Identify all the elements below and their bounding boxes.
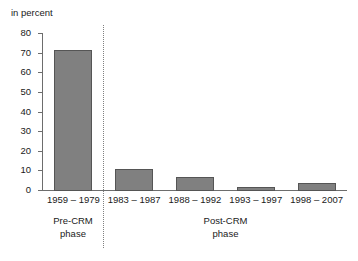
x-axis-tick-label: 1993 – 1997 (225, 194, 286, 206)
bars-layer (43, 33, 347, 191)
y-axis-tick: 60 (38, 72, 42, 73)
bar-chart: in percent 80 70 60 50 40 30 20 (0, 0, 358, 261)
phase-caption-line1: Pre-CRM (43, 214, 103, 227)
phase-caption-line2: phase (43, 227, 103, 240)
y-axis-tick: 40 (38, 112, 42, 113)
phase-caption-line2: phase (104, 227, 347, 240)
bar-slot (225, 33, 286, 191)
y-axis-tick: 20 (38, 151, 42, 152)
y-axis-tick: 70 (38, 53, 42, 54)
bar (237, 187, 275, 191)
y-axis-tick: 50 (38, 92, 42, 93)
y-axis-tick-label: 40 (20, 106, 31, 117)
phase-caption-pre-crm: Pre-CRM phase (43, 214, 103, 240)
y-axis-tick-label: 70 (20, 47, 31, 58)
x-axis-labels: 1959 – 1979 1983 – 1987 1988 – 1992 1993… (43, 194, 347, 208)
y-axis-tick-label: 80 (20, 27, 31, 38)
bar-slot (43, 33, 104, 191)
y-axis-tick-label: 20 (20, 145, 31, 156)
x-axis-tick-label: 1988 – 1992 (165, 194, 226, 206)
y-axis-tick-label: 30 (20, 125, 31, 136)
x-axis-tick-label: 1998 – 2007 (286, 194, 347, 206)
bar-slot (286, 33, 347, 191)
y-axis-tick-label: 10 (20, 164, 31, 175)
y-axis-tick-label: 0 (26, 184, 31, 195)
axis-unit-label: in percent (11, 7, 53, 18)
y-axis-tick: 30 (38, 131, 42, 132)
y-axis-tick: 80 (38, 33, 42, 34)
plot-area: 80 70 60 50 40 30 20 10 (42, 33, 347, 191)
bar (176, 177, 214, 191)
x-axis-tick-label: 1959 – 1979 (43, 194, 104, 206)
y-axis-tick-label: 50 (20, 86, 31, 97)
bar-slot (165, 33, 226, 191)
y-axis-tick: 0 (38, 190, 42, 191)
x-axis-tick-label: 1983 – 1987 (104, 194, 165, 206)
bar (115, 169, 153, 191)
phase-caption-post-crm: Post-CRM phase (104, 214, 347, 240)
phase-caption-line1: Post-CRM (104, 214, 347, 227)
bar (54, 50, 92, 191)
bar (298, 183, 336, 191)
phase-captions: Pre-CRM phase Post-CRM phase (0, 214, 358, 248)
bar-slot (104, 33, 165, 191)
y-axis-tick: 10 (38, 170, 42, 171)
y-axis-tick-label: 60 (20, 66, 31, 77)
